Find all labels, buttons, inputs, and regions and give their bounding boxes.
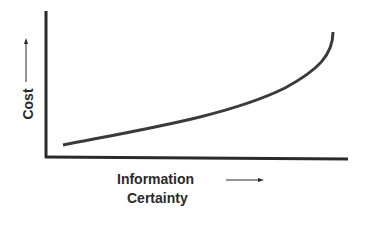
cost-curve [63,32,333,145]
x-axis-label-line1: Information [117,171,194,187]
y-axis-label: Cost [20,74,36,134]
x-axis-label-line2: Certainty [127,190,188,206]
x-axis [45,157,348,159]
